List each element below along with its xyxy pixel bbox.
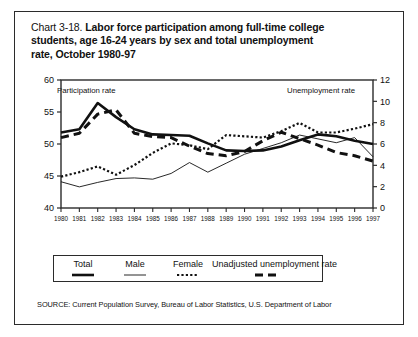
legend-swatch-dashed <box>255 272 277 278</box>
right-axis-tick-label: 12 <box>380 75 390 85</box>
right-axis-tick-label: 6 <box>380 139 385 149</box>
x-axis-tick-label: 1988 <box>201 215 216 222</box>
left-axis-tick-label: 60 <box>44 75 54 85</box>
x-axis-tick-label: 1991 <box>256 215 271 222</box>
line-chart-svg: 4045505560024681012198019811982198319841… <box>15 68 405 248</box>
series-line-male <box>61 135 373 187</box>
left-axis-tick-label: 50 <box>44 139 54 149</box>
x-axis-tick-label: 1994 <box>311 215 326 222</box>
x-axis-tick-label: 1989 <box>219 215 234 222</box>
right-axis-tick-label: 10 <box>380 97 390 107</box>
legend-entry-female[interactable]: Female <box>166 257 210 278</box>
plot-frame <box>61 80 373 208</box>
legend-entry-unadjusted-unemployment-rate[interactable]: Unadjusted unemployment rate <box>212 257 320 278</box>
x-axis-tick-label: 1993 <box>293 215 308 222</box>
x-axis-tick-label: 1987 <box>182 215 197 222</box>
title-line-2: students, age 16-24 years by sex and tot… <box>31 34 381 47</box>
x-axis-tick-label: 1982 <box>91 215 106 222</box>
x-axis-tick-label: 1996 <box>348 215 363 222</box>
right-axis-tick-label: 0 <box>380 203 385 213</box>
title-text-1: Labor force participation among full-tim… <box>85 21 324 33</box>
series-line-total <box>61 103 373 151</box>
legend-label: Female <box>166 257 210 270</box>
legend-entry-male[interactable]: Male <box>112 257 158 278</box>
legend-label: Male <box>112 257 158 270</box>
right-axis-tick-label: 8 <box>380 118 385 128</box>
chart-legend: TotalMaleFemaleUnadjusted unemployment r… <box>53 255 323 282</box>
x-axis-tick-label: 1983 <box>109 215 124 222</box>
chart-series-group <box>61 103 373 187</box>
right-axis-tick-label: 4 <box>380 161 385 171</box>
x-axis-tick-label: 1981 <box>72 215 87 222</box>
chart-tick-labels: 4045505560024681012198019811982198319841… <box>44 75 390 222</box>
x-axis-tick-label: 1995 <box>329 215 344 222</box>
legend-entry-total[interactable]: Total <box>60 257 106 278</box>
left-axis-tick-label: 45 <box>44 171 54 181</box>
x-axis-tick-label: 1992 <box>274 215 289 222</box>
title-line-3: rate, October 1980-97 <box>31 48 381 61</box>
x-axis-tick-label: 1986 <box>164 215 179 222</box>
x-axis-tick-label: 1980 <box>54 215 69 222</box>
legend-swatch-thin-solid <box>124 272 146 278</box>
x-axis-tick-label: 1984 <box>127 215 142 222</box>
chart-number: Chart 3-18. <box>31 21 82 33</box>
series-line-female <box>61 123 373 177</box>
legend-swatch-dotted <box>177 272 199 278</box>
x-axis-tick-label: 1997 <box>366 215 381 222</box>
title-line-1: Chart 3-18. Labor force participation am… <box>31 21 381 34</box>
chart-figure: Chart 3-18. Labor force participation am… <box>14 11 404 325</box>
source-note: SOURCE: Current Population Survey, Burea… <box>37 300 332 309</box>
legend-label: Total <box>60 257 106 270</box>
chart-title: Chart 3-18. Labor force participation am… <box>31 21 381 61</box>
x-axis-tick-label: 1985 <box>146 215 161 222</box>
legend-label: Unadjusted unemployment rate <box>212 257 320 270</box>
right-axis-tick-label: 2 <box>380 182 385 192</box>
legend-swatch-thick-solid <box>72 272 94 278</box>
x-axis-tick-label: 1990 <box>238 215 253 222</box>
left-axis-tick-label: 40 <box>44 203 54 213</box>
left-axis-tick-label: 55 <box>44 107 54 117</box>
plot-area: 4045505560024681012198019811982198319841… <box>15 68 405 248</box>
